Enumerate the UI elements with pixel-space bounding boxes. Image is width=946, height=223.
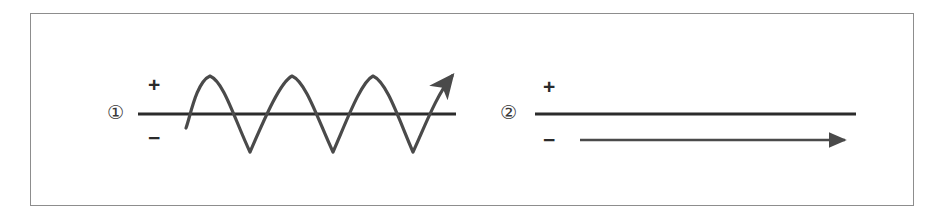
waveform-diagram-canvas: [0, 0, 946, 223]
figure-root: ① + − ② + −: [0, 0, 946, 223]
row-marker-one: ①: [107, 103, 124, 122]
flat-minus-sign: −: [543, 129, 555, 150]
row-wave-signal: [138, 76, 456, 152]
row-marker-two: ②: [500, 103, 517, 122]
flat-plus-sign: +: [543, 76, 555, 97]
row-flat-signal: [535, 114, 856, 140]
wave-plus-sign: +: [148, 74, 160, 95]
wave-minus-sign: −: [148, 127, 160, 148]
